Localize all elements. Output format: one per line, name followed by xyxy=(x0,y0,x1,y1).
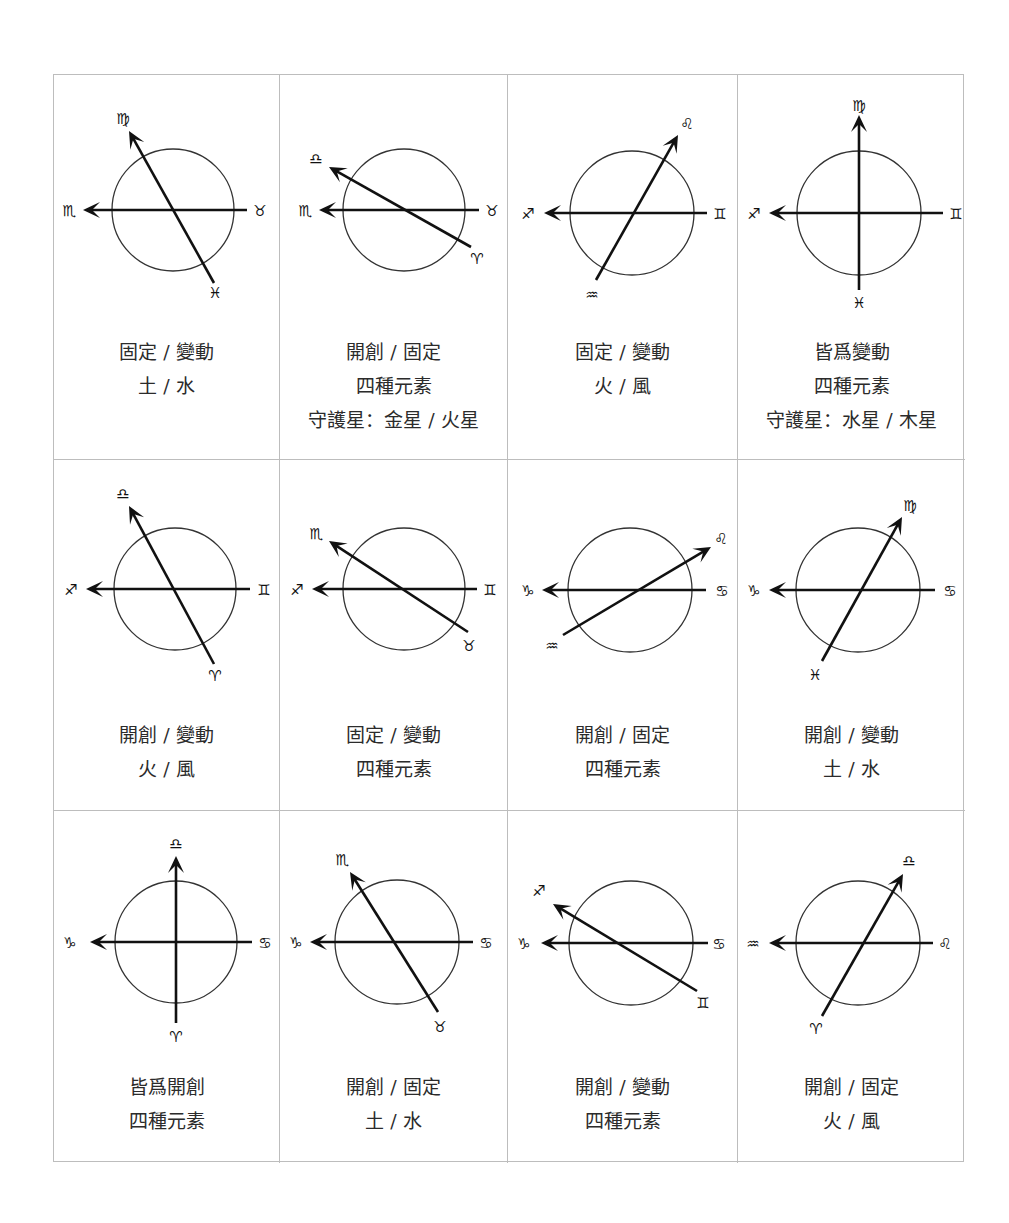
caption-line: 皆爲開創 xyxy=(54,1070,279,1104)
libra-sign-icon: ♎ xyxy=(116,485,129,503)
capricorn-sign-icon: ♑ xyxy=(289,934,302,952)
caption-line: 四種元素 xyxy=(54,1104,279,1138)
oblique-axis-line xyxy=(596,142,674,280)
caption-line: 開創 / 固定 xyxy=(280,1070,507,1104)
taurus-sign-icon: ♉ xyxy=(433,1018,446,1036)
diagram-cell-r1c1: ♏♉♓♍固定 / 變動土 / 水 xyxy=(54,75,280,460)
caption-line: 火 / 風 xyxy=(54,752,279,786)
sagittarius-sign-icon: ♐ xyxy=(521,205,534,223)
taurus-sign-icon: ♉ xyxy=(485,202,498,220)
diagram-cell-r1c2: ♏♉♈♎開創 / 固定四種元素守護星：金星 / 火星 xyxy=(280,75,508,460)
sagittarius-sign-icon: ♐ xyxy=(64,581,77,599)
aquarius-sign-icon: ♒ xyxy=(585,286,598,304)
axis-diagram: ♑♋♊♐ xyxy=(508,811,738,1061)
sagittarius-sign-icon: ♐ xyxy=(532,882,545,900)
diagram-cell-r3c4: ♒♌♈♎開創 / 固定火 / 風 xyxy=(738,811,965,1163)
leo-sign-icon: ♌ xyxy=(680,115,693,133)
zodiac-axis-diagram-grid: ♏♉♓♍固定 / 變動土 / 水♏♉♈♎開創 / 固定四種元素守護星：金星 / … xyxy=(53,74,964,1162)
gemini-sign-icon: ♊ xyxy=(483,581,496,599)
diagram-caption: 開創 / 固定四種元素守護星：金星 / 火星 xyxy=(280,335,507,437)
caption-line: 開創 / 變動 xyxy=(738,718,965,752)
axis-diagram: ♏♉♓♍ xyxy=(54,75,280,325)
diagram-cell-r3c1: ♑♋♈♎皆爲開創四種元素 xyxy=(54,811,280,1163)
cancer-sign-icon: ♋ xyxy=(715,582,728,600)
cancer-sign-icon: ♋ xyxy=(712,935,725,953)
axis-arrowhead-icon xyxy=(350,872,366,891)
gemini-sign-icon: ♊ xyxy=(713,205,726,223)
cancer-sign-icon: ♋ xyxy=(479,934,492,952)
virgo-sign-icon: ♍ xyxy=(852,97,865,115)
caption-line: 守護星：水星 / 木星 xyxy=(738,403,965,437)
aries-sign-icon: ♈ xyxy=(208,667,221,685)
libra-sign-icon: ♎ xyxy=(902,852,915,870)
scorpio-sign-icon: ♏ xyxy=(62,202,76,220)
gemini-sign-icon: ♊ xyxy=(696,994,709,1012)
scorpio-sign-icon: ♏ xyxy=(335,851,349,869)
diagram-cell-r2c2: ♐♊♉♏固定 / 變動四種元素 xyxy=(280,460,508,811)
caption-line: 土 / 水 xyxy=(54,369,279,403)
virgo-sign-icon: ♍ xyxy=(903,497,916,515)
axis-diagram: ♑♋♈♎ xyxy=(54,811,280,1061)
capricorn-sign-icon: ♑ xyxy=(517,935,530,953)
aquarius-sign-icon: ♒ xyxy=(746,935,759,953)
virgo-sign-icon: ♍ xyxy=(116,110,129,128)
caption-line: 火 / 風 xyxy=(738,1104,965,1138)
oblique-axis-line xyxy=(822,524,898,661)
caption-line: 四種元素 xyxy=(508,1104,737,1138)
caption-line: 四種元素 xyxy=(508,752,737,786)
libra-sign-icon: ♎ xyxy=(169,835,182,853)
axis-arrowhead-icon xyxy=(329,541,348,557)
caption-line: 土 / 水 xyxy=(738,752,965,786)
sagittarius-sign-icon: ♐ xyxy=(747,205,760,223)
scorpio-sign-icon: ♏ xyxy=(309,525,323,543)
caption-line: 開創 / 固定 xyxy=(508,718,737,752)
axis-arrowhead-icon xyxy=(692,547,711,563)
caption-line: 四種元素 xyxy=(738,369,965,403)
axis-diagram: ♑♋♉♏ xyxy=(280,811,508,1061)
capricorn-sign-icon: ♑ xyxy=(521,582,534,600)
gemini-sign-icon: ♊ xyxy=(949,205,962,223)
libra-sign-icon: ♎ xyxy=(309,150,322,168)
caption-line: 火 / 風 xyxy=(508,369,737,403)
sagittarius-sign-icon: ♐ xyxy=(290,581,303,599)
aquarius-sign-icon: ♒ xyxy=(545,637,558,655)
cancer-sign-icon: ♋ xyxy=(943,582,956,600)
leo-sign-icon: ♌ xyxy=(938,935,951,953)
capricorn-sign-icon: ♑ xyxy=(63,934,76,952)
caption-line: 開創 / 固定 xyxy=(738,1070,965,1104)
diagram-caption: 開創 / 變動四種元素 xyxy=(508,1070,737,1138)
pisces-sign-icon: ♓ xyxy=(208,284,221,302)
caption-line: 皆爲變動 xyxy=(738,335,965,369)
axis-diagram: ♐♊♈♎ xyxy=(54,460,280,710)
taurus-sign-icon: ♉ xyxy=(462,637,475,655)
caption-line: 固定 / 變動 xyxy=(280,718,507,752)
axis-diagram: ♐♊♒♌ xyxy=(508,75,738,325)
caption-line: 固定 / 變動 xyxy=(508,335,737,369)
caption-line: 固定 / 變動 xyxy=(54,335,279,369)
axis-diagram: ♒♌♈♎ xyxy=(738,811,965,1061)
diagram-cell-r3c3: ♑♋♊♐開創 / 變動四種元素 xyxy=(508,811,738,1163)
oblique-axis-line xyxy=(822,881,899,1016)
pisces-sign-icon: ♓ xyxy=(808,666,821,684)
diagram-caption: 開創 / 變動土 / 水 xyxy=(738,718,965,786)
diagram-caption: 開創 / 固定四種元素 xyxy=(508,718,737,786)
diagram-caption: 開創 / 固定土 / 水 xyxy=(280,1070,507,1138)
caption-line: 四種元素 xyxy=(280,752,507,786)
leo-sign-icon: ♌ xyxy=(714,530,727,548)
gemini-sign-icon: ♊ xyxy=(257,581,270,599)
caption-line: 土 / 水 xyxy=(280,1104,507,1138)
caption-line: 四種元素 xyxy=(280,369,507,403)
scorpio-sign-icon: ♏ xyxy=(298,202,312,220)
taurus-sign-icon: ♉ xyxy=(253,202,266,220)
diagram-cell-r3c2: ♑♋♉♏開創 / 固定土 / 水 xyxy=(280,811,508,1163)
diagram-cell-r1c4: ♐♊♓♍皆爲變動四種元素守護星：水星 / 木星 xyxy=(738,75,965,460)
axis-diagram: ♐♊♓♍ xyxy=(738,75,965,325)
diagram-caption: 開創 / 變動火 / 風 xyxy=(54,718,279,786)
axis-arrowhead-icon xyxy=(553,904,572,920)
diagram-cell-r2c3: ♑♋♒♌開創 / 固定四種元素 xyxy=(508,460,738,811)
caption-line: 開創 / 固定 xyxy=(280,335,507,369)
pisces-sign-icon: ♓ xyxy=(852,294,865,312)
axis-diagram: ♑♋♒♌ xyxy=(508,460,738,710)
diagram-caption: 固定 / 變動火 / 風 xyxy=(508,335,737,403)
diagram-caption: 開創 / 固定火 / 風 xyxy=(738,1070,965,1138)
